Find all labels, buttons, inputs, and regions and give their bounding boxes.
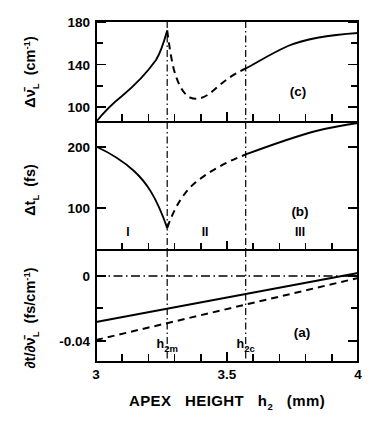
panel-a-dashed-line xyxy=(96,278,358,340)
panel-b-solid-left-curve xyxy=(96,147,167,229)
marker-label-h2c-base: h xyxy=(237,337,245,351)
region-label-I: I xyxy=(126,225,129,239)
panel-b-yticks xyxy=(96,147,358,208)
panel-b-xticks xyxy=(122,241,332,250)
panel-a-ylabel-unit-close: ) xyxy=(22,267,38,272)
three-panel-figure: 180 140 100 (c) Δν̄L (cm-1) xyxy=(0,0,382,430)
xtick-label-3: 3 xyxy=(92,367,100,382)
panel-a-tag: (a) xyxy=(294,325,311,340)
panel-b-frame xyxy=(96,122,358,250)
panel-c-ylabel-unit-close: ) xyxy=(22,36,38,41)
marker-label-h2m-sub: 2m xyxy=(164,343,178,354)
xtick-label-3-5: 3.5 xyxy=(218,367,237,382)
panel-c-yticks xyxy=(96,22,358,107)
panel-b-ylabel-delta: Δ xyxy=(22,205,38,215)
panel-b-ytick-200: 200 xyxy=(67,140,90,155)
panel-a-xticks xyxy=(122,352,332,362)
x-axis-title-h: h xyxy=(258,392,268,409)
panel-b-ytick-100: 100 xyxy=(67,201,90,216)
panel-c-ytick-140: 140 xyxy=(67,58,90,73)
x-axis-title: APEX HEIGHT h2 (mm) xyxy=(129,392,325,412)
panel-c-frame xyxy=(96,21,358,122)
panel-b-solid-right-curve xyxy=(246,123,358,155)
x-axis-title-height: HEIGHT xyxy=(185,392,244,409)
panel-a-ylabel-delta: ∂t/∂ xyxy=(22,345,38,368)
svg-text:ΔtL (fs): ΔtL (fs) xyxy=(22,164,41,216)
panel-a-ylabel: ∂t/∂ν̄L (fs/cm-1) xyxy=(21,267,41,368)
panel-c-solid-right-curve xyxy=(246,33,358,69)
panel-c-dashed-mid-curve xyxy=(167,31,246,99)
panel-c-ylabel-unit-open: (cm xyxy=(22,50,38,76)
panel-c-ytick-100: 100 xyxy=(67,100,90,115)
panel-b-ylabel: ΔtL (fs) xyxy=(22,164,41,216)
marker-label-h2m-base: h xyxy=(157,337,165,351)
region-label-III: III xyxy=(295,225,305,239)
panel-a-solid-line xyxy=(96,273,358,322)
svg-text:∂t/∂ν̄L (fs/cm-1): ∂t/∂ν̄L (fs/cm-1) xyxy=(21,267,41,368)
region-label-II: II xyxy=(202,225,209,239)
figure-container: 180 140 100 (c) Δν̄L (cm-1) xyxy=(0,0,382,430)
panel-c: 180 140 100 (c) xyxy=(67,15,358,122)
panel-a: 0 -0.04 (a) h2m h2c xyxy=(59,250,358,362)
panel-c-xticks xyxy=(122,112,332,122)
panel-a-ytick-0: 0 xyxy=(82,269,90,284)
svg-text:Δν̄L (cm-1): Δν̄L (cm-1) xyxy=(21,36,41,108)
x-axis-title-apex: APEX xyxy=(129,392,171,409)
panel-c-ylabel: Δν̄L (cm-1) xyxy=(21,36,41,108)
panel-a-ytick-neg004: -0.04 xyxy=(59,334,90,349)
panel-a-ylabel-unit-open: (fs/cm xyxy=(22,281,38,324)
xtick-label-4: 4 xyxy=(354,367,362,382)
panel-c-tag: (c) xyxy=(290,84,307,99)
x-axis-title-unit: (mm) xyxy=(287,392,325,409)
panel-c-ytick-180: 180 xyxy=(67,15,90,30)
marker-label-h2c-sub: 2c xyxy=(244,343,255,354)
panel-c-ylabel-delta: Δ xyxy=(22,97,38,107)
panel-a-frame xyxy=(96,250,358,362)
panel-b: 200 100 (b) I II III xyxy=(67,122,358,250)
panel-b-dashed-mid-curve xyxy=(167,155,246,229)
panel-b-tag: (b) xyxy=(291,204,308,219)
panel-c-solid-left-curve xyxy=(96,31,167,123)
panel-b-ylabel-unit-open: (fs) xyxy=(22,164,38,187)
